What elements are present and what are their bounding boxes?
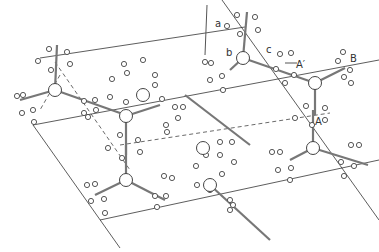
crystal-packing-figure: a b c A′ B A <box>0 0 379 252</box>
label-A-prime: A′ <box>296 59 306 70</box>
label-A: A <box>315 116 322 127</box>
axis-label-c: c <box>266 44 272 55</box>
axis-label-b: b <box>226 47 232 58</box>
label-B: B <box>350 53 357 64</box>
atoms <box>14 12 361 215</box>
axis-label-a: a <box>215 18 221 29</box>
